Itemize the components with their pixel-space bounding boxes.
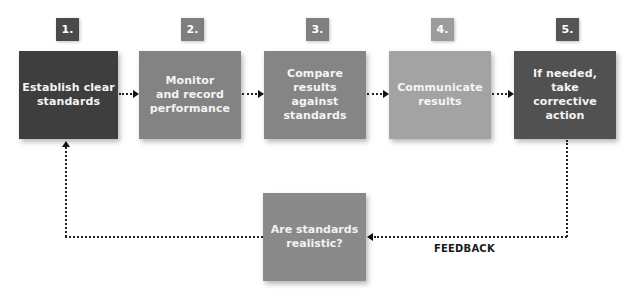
- feedback-label: FEEDBACK: [434, 243, 495, 254]
- feedback-line-down: [566, 140, 568, 237]
- connector-4-5: [492, 93, 507, 95]
- connector-3-4: [367, 93, 382, 95]
- arrow-right-icon: [508, 90, 514, 98]
- step-3-box: Compare results against standards: [264, 51, 366, 139]
- feedback-line-left: [65, 236, 263, 238]
- step-4-badge: 4.: [431, 18, 454, 41]
- connector-2-3: [242, 93, 257, 95]
- step-3-badge: 3.: [306, 18, 329, 41]
- step-4-box: Communicate results: [389, 51, 491, 139]
- arrow-up-icon: [62, 141, 70, 147]
- step-5-badge: 5.: [556, 18, 579, 41]
- connector-1-2: [119, 93, 132, 95]
- arrow-right-icon: [258, 90, 264, 98]
- step-1-badge: 1.: [56, 18, 79, 41]
- step-5-box: If needed, take corrective action: [514, 51, 616, 139]
- step-2-box: Monitor and record performance: [139, 51, 241, 139]
- step-1-box: Establish clear standards: [19, 51, 118, 139]
- feedback-line-up: [65, 147, 67, 237]
- arrow-right-icon: [383, 90, 389, 98]
- arrow-right-icon: [133, 90, 139, 98]
- feedback-box: Are standards realistic?: [263, 193, 366, 281]
- step-2-badge: 2.: [181, 18, 204, 41]
- feedback-line-right: [374, 236, 567, 238]
- arrow-left-icon: [367, 233, 373, 241]
